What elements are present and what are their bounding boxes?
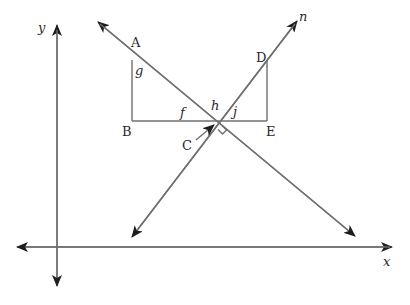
axis-label-y: y <box>37 20 46 35</box>
point-label-D: D <box>256 50 266 65</box>
point-label-B: B <box>122 124 132 139</box>
line-through-A <box>98 22 355 236</box>
angle-label-g: g <box>135 63 143 78</box>
line-label-n: n <box>299 9 307 24</box>
angle-label-f: f <box>179 105 187 120</box>
axis-label-x: x <box>383 254 391 269</box>
angle-label-h: h <box>211 98 219 113</box>
point-label-A: A <box>130 35 141 50</box>
line-a-lower-arrow-icon <box>100 24 355 236</box>
right-angle-mark-icon <box>218 126 227 135</box>
point-label-C: C <box>182 138 192 153</box>
point-label-E: E <box>266 124 276 139</box>
geometry-diagram: A B C D E g f h j n x y <box>0 0 410 305</box>
